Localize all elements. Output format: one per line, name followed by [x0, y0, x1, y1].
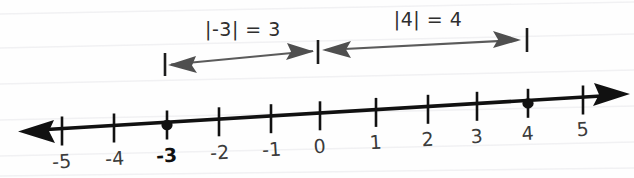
right-expression-label: |4| = 4	[394, 8, 462, 31]
measure-right-arrowhead-right	[493, 31, 521, 48]
measure-right-abs-4	[322, 28, 527, 58]
number-line-canvas: |-3| = 3 |4| = 4	[0, 0, 634, 178]
measurement-arrows-group: |-3| = 3 |4| = 4	[165, 8, 527, 76]
tick-label--2: -2	[209, 140, 229, 163]
tick-label--5: -5	[51, 149, 71, 172]
tick-label-4: 4	[521, 122, 534, 145]
tick-label-3: 3	[470, 125, 483, 148]
measure-left-arrowhead-left	[168, 56, 197, 73]
number-line-figure: |-3| = 3 |4| = 4	[0, 0, 634, 178]
tick-label--4: -4	[104, 146, 124, 169]
point-marker-4	[522, 98, 533, 108]
measure-left-abs-neg3	[165, 43, 314, 76]
tick-label-2: 2	[421, 128, 434, 151]
tick-label-1: 1	[369, 131, 382, 154]
measure-right-shaft	[325, 40, 518, 50]
tick-label-5: 5	[576, 118, 589, 141]
tick-label--1: -1	[261, 137, 281, 160]
left-expression-label: |-3| = 3	[205, 18, 281, 41]
tick-label-0: 0	[313, 135, 326, 158]
axis-arrowhead-left	[18, 120, 55, 143]
tick-label--3: -3	[155, 143, 177, 166]
number-line-axis-group: -5 -4 -3 -2 -1 0 1 2 3 4 5	[18, 83, 630, 173]
point-marker--3	[161, 120, 172, 130]
measure-left-arrowhead-right	[286, 43, 314, 60]
